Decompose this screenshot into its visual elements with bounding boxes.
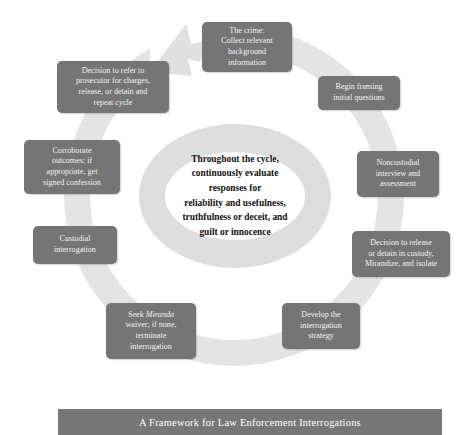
- cycle-node-line: appropriate, get: [43, 167, 101, 178]
- cycle-node-line: Corroborate: [43, 146, 101, 157]
- cycle-node-crime: The crime: Collect relevant background i…: [202, 22, 292, 72]
- cycle-node-line: Mirandize, and isolate: [365, 259, 437, 270]
- cycle-node-corroborate: Corroborate outcomes; if appropriate, ge…: [24, 140, 120, 194]
- cycle-node-line: background: [221, 47, 272, 58]
- cycle-node-line: Collect relevant: [221, 36, 272, 47]
- cycle-node-line: signed confession: [43, 178, 101, 189]
- cycle-diagram: Throughout the cycle, continuously evalu…: [0, 0, 468, 435]
- cycle-node-refer: Decision to refer to prosecutor for char…: [57, 61, 169, 113]
- cycle-node-line: strategy: [300, 331, 342, 342]
- cycle-node-line: terminate: [125, 331, 176, 342]
- cycle-node-line: Custodial: [54, 234, 96, 245]
- cycle-node-miranda-waiver: Seek Miranda waiver; if none, terminate …: [106, 303, 196, 359]
- cycle-node-line: Decision to release: [365, 238, 437, 249]
- cycle-node-line: assessment: [376, 179, 420, 190]
- cycle-node-release-detain: Decision to release or detain in custody…: [352, 231, 450, 277]
- cycle-node-line: waiver; if none,: [125, 320, 176, 331]
- cycle-node-noncustodial: Noncustodial interview and assessment: [357, 151, 439, 197]
- cycle-node-custodial: Custodial interrogation: [33, 226, 117, 264]
- center-inner-ellipse: [165, 152, 305, 240]
- cycle-node-line: release, or detain and: [76, 87, 150, 98]
- cycle-node-framing: Begin framing initial questions: [318, 76, 400, 110]
- cycle-node-line: interrogation: [300, 321, 342, 332]
- cycle-node-line: The crime:: [221, 26, 272, 37]
- figure-caption-bar: A Framework for Law Enforcement Interrog…: [58, 409, 442, 435]
- cycle-node-line-miranda: Seek Miranda: [125, 310, 176, 321]
- cycle-node-line: interview and: [376, 169, 420, 180]
- figure-caption-text: A Framework for Law Enforcement Interrog…: [139, 417, 361, 428]
- cycle-node-line: initial questions: [333, 93, 384, 104]
- cycle-node-line: Decision to refer to: [76, 66, 150, 77]
- cycle-node-line: outcomes; if: [43, 156, 101, 167]
- cycle-node-line: interrogation: [54, 245, 96, 256]
- cycle-node-line: prosecutor for charges,: [76, 76, 150, 87]
- cycle-node-strategy: Develop the interrogation strategy: [282, 303, 360, 349]
- cycle-node-line: Noncustodial: [376, 158, 420, 169]
- cycle-node-line: information: [221, 58, 272, 69]
- cycle-node-line: or detain in custody,: [365, 249, 437, 260]
- cycle-node-line: interrogation: [125, 342, 176, 353]
- cycle-node-line: Develop the: [300, 310, 342, 321]
- cycle-node-line: repeat cycle: [76, 98, 150, 109]
- cycle-node-line: Begin framing: [333, 82, 384, 93]
